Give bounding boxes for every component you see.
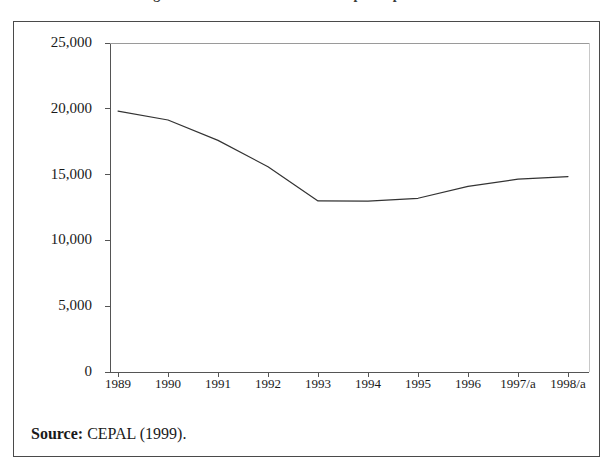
x-tick-label: 1992 [255, 377, 281, 391]
data-series-line [118, 111, 568, 201]
chart-tick-marks [105, 43, 568, 377]
x-tick-label: 1998/a [550, 377, 585, 391]
x-tick-label: 1991 [205, 377, 231, 391]
chart-plot-area: 25,00020,00015,00010,0005,0000 198919901… [14, 22, 601, 382]
cropped-figure-title-text: Figura 1. Producto interno bruto per cáp… [140, 0, 418, 3]
x-axis-tick-labels: 198919901991199219931994199519961997/a19… [14, 377, 601, 403]
source-label: Source: [31, 425, 83, 442]
chart-axes [110, 43, 589, 372]
x-tick-label: 1993 [305, 377, 331, 391]
source-note: Source: CEPAL (1999). [31, 425, 186, 443]
x-tick-label: 1990 [155, 377, 181, 391]
source-text: CEPAL (1999). [87, 425, 186, 442]
figure-frame: 25,00020,00015,00010,0005,0000 198919901… [13, 21, 600, 457]
x-tick-label: 1989 [105, 377, 131, 391]
x-tick-label: 1996 [455, 377, 481, 391]
cropped-figure-title: Figura 1. Producto interno bruto per cáp… [0, 0, 615, 10]
x-tick-label: 1994 [355, 377, 381, 391]
chart-canvas [14, 22, 601, 382]
x-tick-label: 1997/a [500, 377, 535, 391]
x-tick-label: 1995 [405, 377, 431, 391]
